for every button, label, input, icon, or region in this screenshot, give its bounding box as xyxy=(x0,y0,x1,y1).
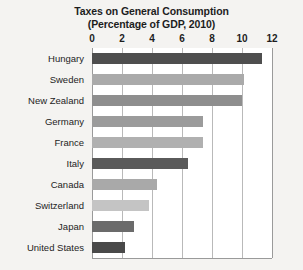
bar-row xyxy=(92,153,272,174)
category-label-germany: Germany xyxy=(0,111,88,132)
x-tick-label-8: 8 xyxy=(209,33,215,44)
category-label-switzerland: Switzerland xyxy=(0,195,88,216)
bar-switzerland xyxy=(92,200,149,211)
bar-row xyxy=(92,132,272,153)
bar-row xyxy=(92,174,272,195)
chart-subtitle: (Percentage of GDP, 2010) xyxy=(0,18,303,31)
x-tick-label-4: 4 xyxy=(149,33,155,44)
x-tick-label-0: 0 xyxy=(89,33,95,44)
category-label-hungary: Hungary xyxy=(0,48,88,69)
bar-sweden xyxy=(92,74,244,85)
category-label-united-states: United States xyxy=(0,237,88,258)
bar-france xyxy=(92,137,203,148)
bar-united-states xyxy=(92,242,125,253)
y-axis-category-labels: HungarySwedenNew ZealandGermanyFranceIta… xyxy=(0,48,88,258)
category-label-japan: Japan xyxy=(0,216,88,237)
bar-row xyxy=(92,237,272,258)
category-label-sweden: Sweden xyxy=(0,69,88,90)
plot-area xyxy=(92,48,272,259)
bar-chart: Taxes on General Consumption (Percentage… xyxy=(0,0,303,270)
category-label-new-zealand: New Zealand xyxy=(0,90,88,111)
bar-italy xyxy=(92,158,188,169)
bar-row xyxy=(92,48,272,69)
x-tick-label-6: 6 xyxy=(179,33,185,44)
chart-title-block: Taxes on General Consumption (Percentage… xyxy=(0,5,303,30)
bar-series xyxy=(92,48,272,258)
x-axis-tick-labels: 024681012 xyxy=(0,33,303,46)
bar-row xyxy=(92,195,272,216)
bar-row xyxy=(92,216,272,237)
gridline-12 xyxy=(272,48,273,258)
category-label-canada: Canada xyxy=(0,174,88,195)
bar-japan xyxy=(92,221,134,232)
bar-new-zealand xyxy=(92,95,242,106)
bar-canada xyxy=(92,179,157,190)
category-label-italy: Italy xyxy=(0,153,88,174)
bar-row xyxy=(92,69,272,90)
category-label-france: France xyxy=(0,132,88,153)
bar-germany xyxy=(92,116,203,127)
x-tick-label-2: 2 xyxy=(119,33,125,44)
bar-row xyxy=(92,90,272,111)
x-tick-label-10: 10 xyxy=(236,33,247,44)
x-tick-label-12: 12 xyxy=(266,33,277,44)
bar-hungary xyxy=(92,53,262,64)
bar-row xyxy=(92,111,272,132)
chart-title: Taxes on General Consumption xyxy=(0,5,303,18)
